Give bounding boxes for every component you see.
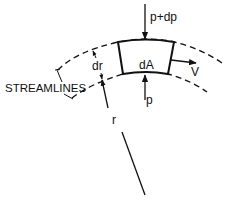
streamlines-label: STREAMLINES	[5, 82, 86, 94]
velocity-label: V	[191, 65, 199, 79]
pressure-bottom-label: p	[146, 93, 153, 107]
radius-line-upper	[102, 80, 108, 108]
streamlines-leader-upper	[57, 70, 62, 82]
pressure-top-label: p+dp	[150, 10, 177, 24]
dr-arrow-top	[93, 51, 96, 58]
streamline-element-diagram: dA p+dp p V dr r STREAMLINES	[0, 0, 227, 202]
arrow-v	[171, 60, 196, 63]
radius-line-lower	[122, 132, 145, 195]
streamlines-leader-upper-tick	[55, 69, 60, 70]
streamlines-leader-lower	[64, 94, 73, 99]
thickness-label: dr	[92, 59, 103, 73]
dr-arrow-bottom	[101, 73, 102, 79]
radius-label: r	[112, 113, 116, 127]
inner-streamline	[72, 71, 207, 98]
element-area-label: dA	[139, 58, 154, 72]
